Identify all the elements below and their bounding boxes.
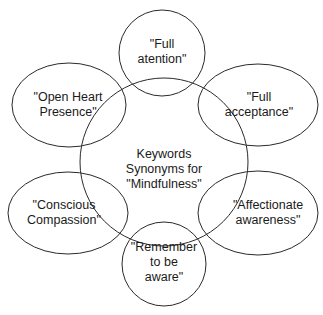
conscious-compassion-label: "Conscious Compassion" (27, 198, 101, 228)
full-acceptance-label: "Full acceptance" (225, 90, 293, 120)
full-attention-label: "Full atention" (138, 37, 187, 67)
center-label: Keywords Synonyms for "Mindfulness" (126, 147, 202, 192)
affectionate-awareness-label: "Affectionate awareness" (233, 198, 303, 228)
remember-to-be-aware-label: "Remember to be aware" (131, 240, 197, 285)
open-heart-presence-label: "Open Heart Presence" (33, 90, 102, 120)
